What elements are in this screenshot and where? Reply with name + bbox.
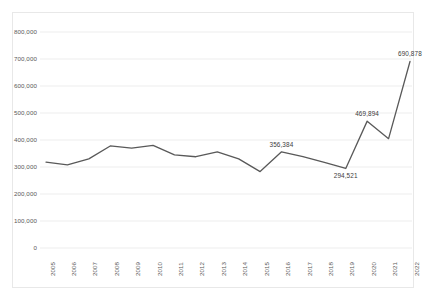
x-axis-tick-label: 2009 <box>134 262 141 276</box>
x-axis-tick-label: 2019 <box>348 262 355 276</box>
x-axis-tick-label: 2022 <box>413 262 420 276</box>
x-axis-tick-label: 2005 <box>49 262 56 276</box>
y-axis-tick-label: 100,000 <box>0 217 37 224</box>
data-point-label: 469,894 <box>355 110 379 117</box>
x-axis-tick-label: 2015 <box>263 262 270 276</box>
y-axis-tick-label: 500,000 <box>0 109 37 116</box>
x-axis-tick-label: 2008 <box>113 262 120 276</box>
data-point-label: 356,384 <box>270 141 294 148</box>
x-axis-tick-label: 2013 <box>220 262 227 276</box>
x-axis-tick-label: 2016 <box>284 262 291 276</box>
x-axis-tick-label: 2014 <box>241 262 248 276</box>
x-axis-tick-label: 2011 <box>177 262 184 276</box>
y-axis-tick-label: 400,000 <box>0 136 37 143</box>
y-axis-tick-label: 700,000 <box>0 55 37 62</box>
x-axis-tick-label: 2006 <box>70 262 77 276</box>
y-axis-tick-label: 0 <box>0 244 37 251</box>
y-axis-tick-label: 300,000 <box>0 163 37 170</box>
x-axis-tick-label: 2018 <box>327 262 334 276</box>
x-axis-tick-label: 2010 <box>156 262 163 276</box>
data-point-label: 690,878 <box>398 50 422 57</box>
y-axis-tick-label: 200,000 <box>0 190 37 197</box>
chart-frame <box>12 12 414 288</box>
y-axis-tick-label: 600,000 <box>0 82 37 89</box>
data-point-label: 294,521 <box>334 172 358 179</box>
x-axis-tick-label: 2007 <box>91 262 98 276</box>
x-axis-tick-label: 2017 <box>306 262 313 276</box>
y-axis-tick-label: 800,000 <box>0 28 37 35</box>
x-axis-tick-label: 2012 <box>198 262 205 276</box>
x-axis-tick-label: 2020 <box>370 262 377 276</box>
x-axis-tick-label: 2021 <box>391 262 398 276</box>
